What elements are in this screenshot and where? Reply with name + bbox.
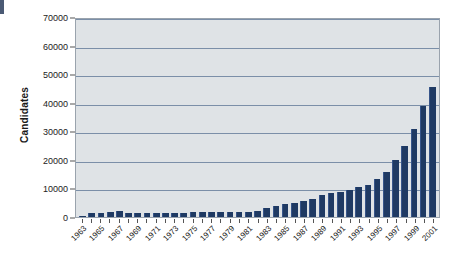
bar (236, 212, 243, 217)
bar-slot (142, 19, 151, 217)
x-axis-tick-mark (82, 219, 83, 223)
bar-slot (290, 19, 299, 217)
bar-slot (87, 19, 96, 217)
x-axis-tick-mark (220, 219, 221, 223)
bar (300, 201, 307, 217)
x-axis-tick-label: 1967 (106, 224, 125, 243)
bar-slot (326, 19, 335, 217)
x-axis-tick-mark (433, 219, 434, 223)
y-axis-tick-label: 70000 (43, 13, 68, 23)
bar-slot (354, 19, 363, 217)
x-axis-tick-mark (424, 219, 425, 223)
bar (116, 211, 123, 217)
x-axis-tick-mark (100, 219, 101, 223)
bar (365, 185, 372, 217)
x-axis-tick-label: 1983 (254, 224, 273, 243)
x-axis-tick-label: 1975 (180, 224, 199, 243)
x-axis-tick-label: 1977 (199, 224, 218, 243)
bar-slot (409, 19, 418, 217)
bar-slot (115, 19, 124, 217)
bar-slot (124, 19, 133, 217)
x-axis-tick-label: 1971 (143, 224, 162, 243)
bar-slot (198, 19, 207, 217)
x-axis-tick-mark (341, 219, 342, 223)
x-axis-tick-mark (248, 219, 249, 223)
bar (162, 213, 169, 217)
bar-slot (253, 19, 262, 217)
y-axis-tick-label: 50000 (43, 70, 68, 80)
bar (291, 203, 298, 217)
bar-slot (262, 19, 271, 217)
bar-slot (152, 19, 161, 217)
bar-slot (161, 19, 170, 217)
x-axis-tick-mark (239, 219, 240, 223)
y-axis-tick-label: 60000 (43, 42, 68, 52)
bar (355, 187, 362, 217)
bar (153, 213, 160, 217)
bar (411, 129, 418, 217)
plot-area (75, 18, 440, 218)
bar (245, 212, 252, 217)
bar (134, 213, 141, 217)
x-axis-tick-mark (332, 219, 333, 223)
x-axis-tick-mark (230, 219, 231, 223)
x-axis-tick-mark (211, 219, 212, 223)
x-axis-tick-mark (406, 219, 407, 223)
bar-slot (299, 19, 308, 217)
x-axis-tick-mark (91, 219, 92, 223)
bar-slot (345, 19, 354, 217)
y-axis-tick-label: 40000 (43, 99, 68, 109)
bar-slot (133, 19, 142, 217)
bar-chart: Candidates 01000020000300004000050000600… (0, 0, 465, 263)
y-axis-tick-labels: 010000200003000040000500006000070000 (0, 0, 75, 263)
bar-slot (419, 19, 428, 217)
bar-slot (96, 19, 105, 217)
x-axis-tick-labels: 1963196519671969197119731975197719791981… (75, 219, 440, 263)
bar-slot (188, 19, 197, 217)
bar (79, 216, 86, 217)
x-axis-tick-label: 1965 (88, 224, 107, 243)
x-axis-tick-mark (304, 219, 305, 223)
bar-slot (428, 19, 437, 217)
x-axis-tick-mark (165, 219, 166, 223)
bar-slot (280, 19, 289, 217)
bar (217, 212, 224, 217)
x-axis-tick-mark (285, 219, 286, 223)
x-axis-tick-label: 1997 (384, 224, 403, 243)
x-axis-tick-mark (119, 219, 120, 223)
bar (107, 212, 114, 217)
bar (309, 199, 316, 217)
bar (401, 146, 408, 217)
bar (227, 212, 234, 217)
x-axis-tick-mark (369, 219, 370, 223)
bar-slot (308, 19, 317, 217)
x-axis-tick-mark (156, 219, 157, 223)
x-axis-tick-mark (276, 219, 277, 223)
x-axis-tick-label: 1999 (402, 224, 421, 243)
y-axis-tick-label: 10000 (43, 184, 68, 194)
bar-slot (382, 19, 391, 217)
x-axis-tick-label: 1995 (365, 224, 384, 243)
x-axis-tick-mark (359, 219, 360, 223)
y-axis-tick-label: 30000 (43, 127, 68, 137)
x-axis-tick-mark (322, 219, 323, 223)
y-axis-tick-label: 0 (63, 213, 68, 223)
bar-series (76, 19, 439, 217)
bar-slot (106, 19, 115, 217)
bar (263, 208, 270, 217)
x-axis-tick-mark (295, 219, 296, 223)
bar-slot (179, 19, 188, 217)
bar-slot (391, 19, 400, 217)
bar (273, 206, 280, 217)
x-axis-tick-label: 1987 (291, 224, 310, 243)
bar (88, 213, 95, 217)
x-axis-tick-mark (128, 219, 129, 223)
x-axis-tick-mark (267, 219, 268, 223)
bar-slot (207, 19, 216, 217)
bar-slot (336, 19, 345, 217)
bar-slot (317, 19, 326, 217)
bar-slot (234, 19, 243, 217)
bar (98, 213, 105, 217)
x-axis-tick-label: 1973 (162, 224, 181, 243)
bar-slot (400, 19, 409, 217)
